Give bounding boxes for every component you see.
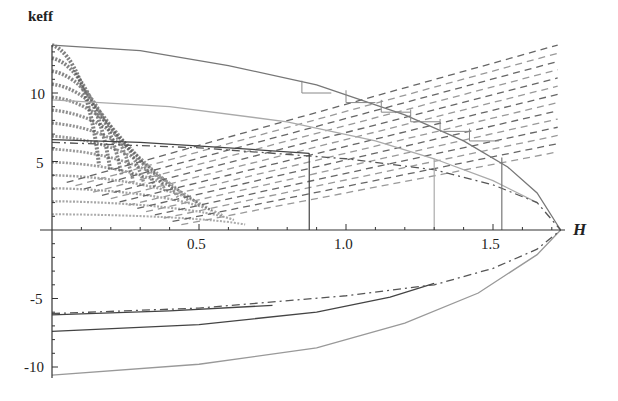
chart-canvas: [0, 0, 618, 401]
x-tick-1-5: 1.5: [481, 236, 500, 253]
series-short-solid-lower: [52, 305, 273, 315]
y-axis-label: keff: [28, 8, 53, 25]
dense-arc-family: [52, 45, 245, 224]
series-dash-dot-upper: [52, 142, 561, 230]
x-tick-1-0: 1.0: [334, 236, 353, 253]
series-group: [52, 45, 561, 375]
x-tick-0-5: 0.5: [187, 236, 206, 253]
dashed-line-family: [67, 45, 558, 225]
x-axis-label: H: [573, 220, 586, 240]
y-tick-10: 10: [30, 86, 45, 103]
y-tick-neg5: -5: [30, 291, 43, 308]
y-tick-5: 5: [36, 155, 44, 172]
y-tick-neg10: -10: [24, 359, 44, 376]
